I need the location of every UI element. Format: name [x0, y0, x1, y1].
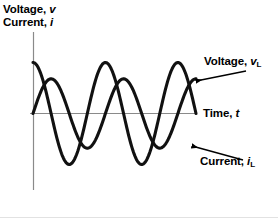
y-axis-label-current: Current, i	[3, 16, 55, 29]
y-axis-label: Voltage, v Current, i	[3, 3, 55, 29]
current-curve-label: Current, iL	[200, 155, 255, 169]
voltage-annotation-arrow	[196, 71, 246, 81]
waveform-figure: Voltage, v Current, i Voltage, vL Time, …	[0, 0, 278, 218]
y-axis-label-voltage: Voltage, v	[3, 3, 55, 15]
x-axis-label: Time, t	[203, 107, 239, 120]
voltage-curve-label: Voltage, vL	[204, 55, 261, 69]
